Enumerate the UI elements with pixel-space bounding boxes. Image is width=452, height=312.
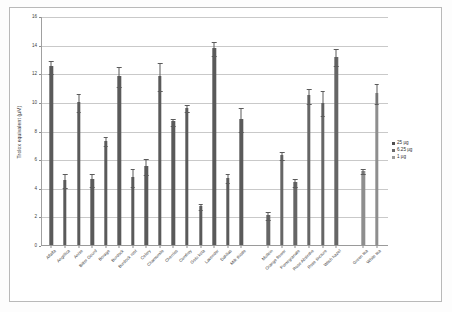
- error-bar-cap-top: [212, 42, 217, 43]
- x-tick-mark: [322, 245, 323, 248]
- bar-slot[interactable]: [302, 17, 316, 245]
- error-bar-cap-top: [320, 91, 325, 92]
- error-bar-cap-top: [266, 212, 271, 213]
- bar[interactable]: [226, 178, 229, 245]
- error-bar-cap-bottom: [90, 187, 95, 188]
- bar[interactable]: [145, 166, 148, 245]
- x-axis-label: Borage: [98, 249, 111, 262]
- error-bar: [322, 91, 323, 117]
- y-tick-label: 10: [32, 101, 37, 106]
- chart-figure: Trolox equivalent (µM) 0246810121416 Alf…: [0, 0, 452, 312]
- bar-slot[interactable]: [58, 17, 72, 245]
- x-tick-mark: [363, 245, 364, 248]
- legend-label: 1 µg: [397, 155, 406, 160]
- bar[interactable]: [90, 179, 93, 245]
- legend-item[interactable]: 1 µg: [392, 155, 412, 160]
- error-bar: [146, 159, 147, 175]
- legend-item[interactable]: 6.25 µg: [392, 148, 412, 153]
- bar-slot[interactable]: [140, 17, 154, 245]
- bar-slot[interactable]: [275, 17, 289, 245]
- bar[interactable]: [375, 93, 378, 245]
- x-tick-mark: [336, 245, 337, 248]
- bar-slot[interactable]: [207, 17, 221, 245]
- legend-label: 25 µg: [397, 141, 409, 146]
- x-tick-mark: [295, 245, 296, 248]
- bar[interactable]: [172, 121, 175, 245]
- error-bar: [227, 174, 228, 183]
- x-tick-mark: [241, 245, 242, 248]
- bar-slot[interactable]: [370, 17, 384, 245]
- error-bar: [159, 63, 160, 92]
- x-tick-mark: [92, 245, 93, 248]
- bar-slot[interactable]: [316, 17, 330, 245]
- y-tick-mark: [39, 246, 42, 247]
- error-bar-cap-top: [239, 108, 244, 109]
- bar-slot[interactable]: [153, 17, 167, 245]
- error-bar-cap-bottom: [103, 146, 108, 147]
- error-bar-cap-bottom: [131, 187, 136, 188]
- error-bar-cap-top: [171, 119, 176, 120]
- bar[interactable]: [185, 108, 188, 245]
- legend-item[interactable]: 25 µg: [392, 141, 412, 146]
- legend-label: 6.25 µg: [397, 148, 412, 153]
- error-bar-cap-top: [103, 137, 108, 138]
- bar[interactable]: [118, 76, 121, 245]
- y-tick-label: 12: [32, 72, 37, 77]
- bar-slot[interactable]: [99, 17, 113, 245]
- x-tick-mark: [200, 245, 201, 248]
- bar[interactable]: [280, 155, 283, 245]
- bar[interactable]: [63, 180, 66, 245]
- chart-legend: 25 µg6.25 µg1 µg: [392, 141, 412, 163]
- bar-slot[interactable]: [126, 17, 140, 245]
- bar-slot[interactable]: [45, 17, 59, 245]
- error-bar-cap-bottom: [361, 174, 366, 175]
- error-bar-cap-bottom: [266, 220, 271, 221]
- bar-slot[interactable]: [194, 17, 208, 245]
- bar-slot[interactable]: [234, 17, 248, 245]
- bar[interactable]: [294, 182, 297, 245]
- bar-slot[interactable]: [72, 17, 86, 245]
- bar[interactable]: [334, 57, 337, 245]
- error-bar-cap-bottom: [280, 160, 285, 161]
- error-bar-cap-top: [185, 105, 190, 106]
- bar-slot[interactable]: [112, 17, 126, 245]
- error-bar-cap-bottom: [239, 132, 244, 133]
- error-bar: [241, 108, 242, 132]
- bar-slot[interactable]: [356, 17, 370, 245]
- bar[interactable]: [321, 103, 324, 245]
- x-axis-label: Angelica: [56, 249, 71, 264]
- bar[interactable]: [199, 206, 202, 245]
- error-bar: [78, 94, 79, 113]
- bar[interactable]: [50, 66, 53, 245]
- x-tick-mark: [78, 245, 79, 248]
- error-bar-cap-top: [49, 61, 54, 62]
- x-tick-mark: [214, 245, 215, 248]
- bar-slot[interactable]: [85, 17, 99, 245]
- error-bar-cap-top: [307, 89, 312, 90]
- bar[interactable]: [362, 171, 365, 245]
- bar-slot[interactable]: [167, 17, 181, 245]
- bar[interactable]: [77, 102, 80, 245]
- error-bar-cap-bottom: [320, 116, 325, 117]
- x-tick-mark: [309, 245, 310, 248]
- y-tick-label: 4: [34, 186, 37, 191]
- bar-slot[interactable]: [180, 17, 194, 245]
- bar[interactable]: [307, 95, 310, 245]
- error-bar-cap-top: [90, 174, 95, 175]
- bar-slot[interactable]: [221, 17, 235, 245]
- error-bar-cap-bottom: [158, 91, 163, 92]
- bar-series: [42, 17, 388, 245]
- error-bar-cap-bottom: [185, 112, 190, 113]
- error-bar-cap-bottom: [374, 104, 379, 105]
- bar-slot[interactable]: [289, 17, 303, 245]
- bar[interactable]: [212, 48, 215, 245]
- error-bar-cap-bottom: [225, 183, 230, 184]
- bar-slot[interactable]: [329, 17, 343, 245]
- y-tick-label: 6: [34, 158, 37, 163]
- bar[interactable]: [158, 76, 161, 245]
- error-bar: [187, 105, 188, 112]
- bar[interactable]: [240, 119, 243, 245]
- bar[interactable]: [104, 141, 107, 245]
- bar-slot[interactable]: [262, 17, 276, 245]
- error-bar-cap-top: [144, 159, 149, 160]
